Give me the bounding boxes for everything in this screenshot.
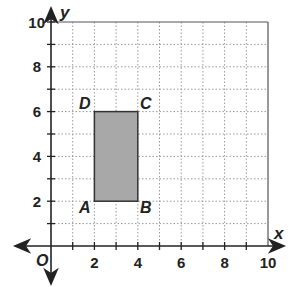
y-axis-label: y xyxy=(59,3,71,22)
x-tick-label-8: 8 xyxy=(220,254,228,271)
y-tick-label-2: 2 xyxy=(33,193,41,210)
y-tick-label-6: 6 xyxy=(33,103,41,120)
x-tick-label-10: 10 xyxy=(260,254,277,271)
y-tick-label-4: 4 xyxy=(33,148,42,165)
axes xyxy=(15,8,284,284)
x-tick-label-6: 6 xyxy=(177,254,185,271)
y-tick-label-10: 10 xyxy=(28,14,45,31)
origin-label: O xyxy=(36,252,49,269)
vertex-label-b: B xyxy=(140,199,152,216)
coordinate-plane-figure: 2 4 6 8 10 2 4 6 8 10 y x O D C A B xyxy=(0,0,290,287)
vertex-label-c: C xyxy=(140,95,152,112)
x-tick-label-4: 4 xyxy=(134,254,143,271)
y-tick-label-8: 8 xyxy=(33,58,41,75)
vertex-label-a: A xyxy=(78,199,91,216)
x-axis-label: x xyxy=(273,224,285,243)
vertex-label-d: D xyxy=(79,95,91,112)
x-tick-label-2: 2 xyxy=(90,254,98,271)
rectangle-abcd xyxy=(94,112,137,202)
